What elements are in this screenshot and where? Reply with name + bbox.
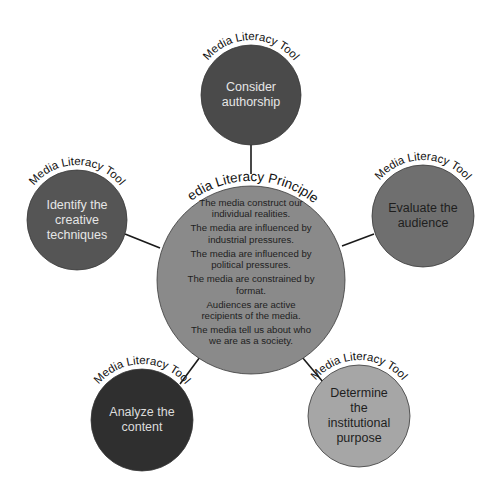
tool-label-determine-institutional-purpose: Determine the institutional purpose [308, 365, 410, 467]
tool-label-line: the [350, 401, 367, 416]
tool-label-line: creative [55, 213, 99, 228]
tool-label-line: audience [398, 216, 449, 231]
principle-line: industrial pressures. [171, 234, 331, 245]
principles-list: The media construct our individual reali… [171, 197, 331, 349]
tool-label-line: Determine [330, 386, 388, 401]
principle-line: format. [171, 285, 331, 296]
tool-label-line: Consider [226, 80, 276, 95]
tool-label-line: authorship [222, 95, 280, 110]
principle-line: The media are influenced by [171, 248, 331, 259]
tool-label-line: techniques [47, 228, 107, 243]
principle-line: recipients of the media. [171, 310, 331, 321]
principle-item: The media construct our individual reali… [171, 197, 331, 220]
principle-item: The media are constrained by format. [171, 273, 331, 296]
principle-line: The media are influenced by [171, 222, 331, 233]
principle-item: The media tell us about who we are as a … [171, 324, 331, 347]
principle-line: we are as a society. [171, 335, 331, 346]
principle-item: Audiences are active recipients of the m… [171, 299, 331, 322]
tool-label-analyze-content: Analyze the content [91, 369, 193, 471]
connector-line [342, 234, 374, 246]
connector-line [125, 234, 160, 248]
principle-line: Audiences are active [171, 299, 331, 310]
tool-label-line: Analyze the [109, 405, 174, 420]
principle-line: The media construct our [171, 197, 331, 208]
tool-label-line: Evaluate the [388, 201, 458, 216]
tool-label-evaluate-audience: Evaluate the audience [372, 165, 474, 267]
tool-label-consider-authorship: Consider authorship [201, 45, 301, 145]
principle-line: The media are constrained by [171, 273, 331, 284]
principle-line: The media tell us about who [171, 324, 331, 335]
principle-item: The media are influenced by industrial p… [171, 222, 331, 245]
tool-label-identify-creative-techniques: Identify the creative techniques [27, 170, 127, 270]
principle-item: The media are influenced by political pr… [171, 248, 331, 271]
tool-label-line: institutional [328, 416, 391, 431]
principle-line: individual realities. [171, 208, 331, 219]
media-literacy-diagram: Media Literacy PrinciplesMedia Literacy … [0, 0, 502, 482]
tool-label-line: content [121, 420, 162, 435]
principle-line: political pressures. [171, 259, 331, 270]
tool-label-line: Identify the [46, 198, 107, 213]
tool-label-line: purpose [336, 431, 381, 446]
